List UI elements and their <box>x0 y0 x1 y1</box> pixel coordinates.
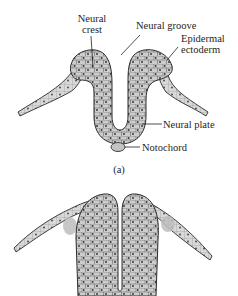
figure-b <box>14 194 212 296</box>
right-neural-crest-cells <box>161 216 175 232</box>
neural-groove-label: Neural groove <box>136 20 196 31</box>
notochord-label: Notochord <box>142 142 187 153</box>
epidermal-label-line2: ectoderm <box>181 44 225 55</box>
neural-plate <box>70 50 172 144</box>
neural-tube-b <box>76 194 158 296</box>
notochord <box>111 143 125 152</box>
panel-label-a: (a) <box>108 164 130 175</box>
epidermal-label-line1: Epidermal <box>181 33 225 44</box>
left-neural-crest-cells <box>63 217 77 235</box>
epidermal-ectoderm-label: Epidermal ectoderm <box>181 33 225 55</box>
figure-a <box>18 35 208 152</box>
neural-crest-label: Neural crest <box>73 13 111 35</box>
neural-tube-diagram: Neural crest Neural groove Epidermal ect… <box>0 0 238 296</box>
neural-plate-label: Neural plate <box>163 119 215 130</box>
neural-crest-label-line2: crest <box>73 24 111 35</box>
neural-crest-label-line1: Neural <box>73 13 111 24</box>
